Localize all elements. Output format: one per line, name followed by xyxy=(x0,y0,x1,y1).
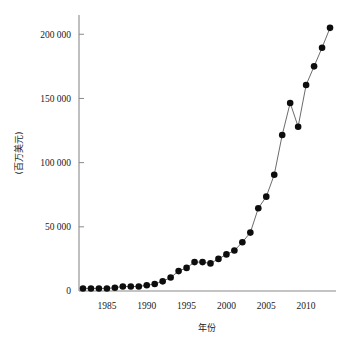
data-point xyxy=(271,172,278,179)
data-point xyxy=(120,283,127,290)
data-point xyxy=(104,285,111,292)
data-point xyxy=(88,285,95,292)
data-point xyxy=(247,229,254,236)
data-point xyxy=(263,193,270,200)
data-point xyxy=(167,274,174,281)
y-tick-label: 0 xyxy=(66,286,71,296)
x-axis-title: 年份 xyxy=(198,322,216,333)
data-point xyxy=(191,259,198,266)
chart-container: 050 000100 000150 000200 000 19851990199… xyxy=(0,0,343,347)
data-point xyxy=(231,247,238,254)
data-point xyxy=(327,25,334,32)
data-point xyxy=(287,100,294,107)
data-point xyxy=(215,256,222,263)
x-tick-label: 1995 xyxy=(177,301,196,311)
data-point xyxy=(183,265,190,272)
data-point xyxy=(112,284,119,291)
x-tick-label: 2010 xyxy=(297,301,316,311)
y-tick-label: 200 000 xyxy=(40,30,71,40)
data-point xyxy=(239,239,246,246)
x-tick-label: 1985 xyxy=(97,301,116,311)
y-axis-title: (百万美元) xyxy=(13,131,24,174)
data-point xyxy=(207,260,214,267)
data-point xyxy=(311,63,318,70)
data-point xyxy=(303,82,310,89)
x-tick-label: 2005 xyxy=(257,301,276,311)
data-point xyxy=(199,259,206,266)
data-point xyxy=(255,205,262,212)
y-tick-label: 50 000 xyxy=(45,222,71,232)
data-point xyxy=(80,285,87,292)
y-tick-label: 100 000 xyxy=(40,158,71,168)
y-tick-label: 150 000 xyxy=(40,94,71,104)
data-point xyxy=(135,283,142,290)
data-point xyxy=(159,278,166,285)
data-point xyxy=(128,283,135,290)
data-point xyxy=(175,268,182,275)
x-tick-label: 2000 xyxy=(217,301,236,311)
data-point xyxy=(96,285,103,292)
data-point xyxy=(279,132,286,139)
x-tick-label: 1990 xyxy=(137,301,156,311)
data-point xyxy=(143,282,150,289)
data-point xyxy=(151,281,158,288)
data-point xyxy=(223,251,230,258)
data-point xyxy=(295,123,302,130)
plot-background xyxy=(0,0,343,347)
data-point xyxy=(319,44,326,51)
line-chart: 050 000100 000150 000200 000 19851990199… xyxy=(0,0,343,347)
